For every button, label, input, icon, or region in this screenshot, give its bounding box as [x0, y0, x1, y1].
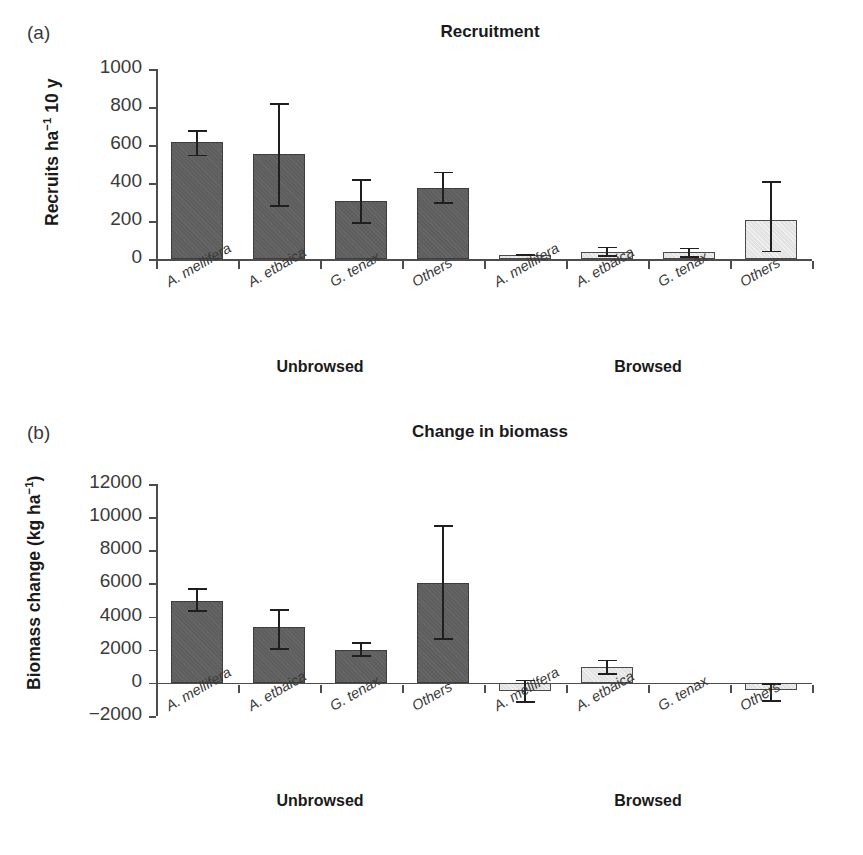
y-axis-tick-label: 0	[26, 246, 142, 268]
y-axis-line	[156, 484, 158, 716]
x-axis-tick	[484, 261, 486, 269]
panel-b: (b) Change in biomass Biomass change (kg…	[0, 400, 863, 855]
x-axis-tick	[238, 261, 240, 269]
error-bar-cap-upper	[598, 660, 617, 662]
error-bar-cap-lower	[188, 610, 207, 612]
y-axis-tick-label: 0	[26, 670, 142, 692]
error-bar-cap-lower	[270, 205, 289, 207]
x-axis-tick	[812, 261, 814, 269]
error-bar-cap-lower	[352, 222, 371, 224]
y-axis-tick	[149, 583, 156, 585]
y-axis-tick	[149, 484, 156, 486]
error-bar-cap-upper	[270, 103, 289, 105]
group-label: Unbrowsed	[210, 358, 430, 376]
group-label: Unbrowsed	[210, 792, 430, 810]
y-axis-tick	[149, 259, 156, 261]
y-axis-tick	[149, 683, 156, 685]
y-axis-line	[156, 69, 158, 259]
y-axis-tick	[149, 69, 156, 71]
error-bar	[266, 103, 292, 207]
x-axis-tick	[730, 685, 732, 693]
y-axis-tick	[149, 517, 156, 519]
error-bar-cap-upper	[762, 181, 781, 183]
y-axis-tick-label: 4000	[26, 604, 142, 626]
y-axis-tick	[149, 650, 156, 652]
x-axis-tick	[156, 261, 158, 269]
y-axis-tick-label: 8000	[26, 537, 142, 559]
bar[interactable]	[171, 142, 223, 259]
y-axis-tick-label: 400	[26, 170, 142, 192]
x-axis-tick	[648, 261, 650, 269]
error-bar-cap-upper	[680, 248, 699, 250]
error-bar	[184, 588, 210, 611]
y-axis-tick-label: 6000	[26, 570, 142, 592]
y-axis-tick	[149, 617, 156, 619]
error-bar	[184, 130, 210, 157]
x-axis-tick	[730, 261, 732, 269]
y-axis-tick	[149, 550, 156, 552]
y-axis-tick-label: 600	[26, 132, 142, 154]
error-bar-cap-upper	[598, 247, 617, 249]
error-bar-stem	[196, 588, 198, 611]
y-axis-tick-label: 12000	[26, 471, 142, 493]
y-axis-tick-label: 2000	[26, 637, 142, 659]
y-axis-tick-label: −2000	[26, 703, 142, 725]
error-bar-cap-lower	[270, 648, 289, 650]
x-axis-tick	[402, 261, 404, 269]
y-axis-tick-label: 1000	[26, 56, 142, 78]
error-bar-stem	[442, 172, 444, 204]
error-bar-stem	[278, 609, 280, 650]
x-axis-tick	[566, 685, 568, 693]
error-bar	[594, 660, 620, 675]
x-axis-tick	[566, 261, 568, 269]
y-axis-tick	[149, 716, 156, 718]
x-axis-tick	[484, 685, 486, 693]
error-bar-stem	[360, 179, 362, 224]
error-bar-stem	[278, 103, 280, 207]
panel-b-plot-area: −2000020004000600080001000012000A. melli…	[0, 400, 863, 855]
figure-root: (a) Recruitment Recruits ha−1 10 y 02004…	[0, 0, 863, 855]
y-axis-tick	[149, 183, 156, 185]
group-label: Browsed	[538, 358, 758, 376]
x-axis-tick	[320, 685, 322, 693]
y-axis-tick-label: 10000	[26, 504, 142, 526]
error-bar-cap-lower	[352, 655, 371, 657]
error-bar	[430, 525, 456, 639]
x-axis-tick	[320, 261, 322, 269]
error-bar-cap-upper	[352, 642, 371, 644]
x-axis-tick	[402, 685, 404, 693]
x-axis-tick	[238, 685, 240, 693]
y-axis-tick	[149, 221, 156, 223]
error-bar-cap-upper	[434, 525, 453, 527]
error-bar-cap-lower	[434, 638, 453, 640]
error-bar-cap-lower	[762, 251, 781, 253]
panel-a-plot-area: 02004006008001000A. melliferaA. etbaicaG…	[0, 0, 863, 400]
error-bar-cap-lower	[598, 673, 617, 675]
error-bar-stem	[442, 525, 444, 639]
group-label: Browsed	[538, 792, 758, 810]
error-bar-cap-upper	[188, 130, 207, 132]
error-bar-stem	[196, 130, 198, 157]
panel-a: (a) Recruitment Recruits ha−1 10 y 02004…	[0, 0, 863, 400]
error-bar	[266, 609, 292, 650]
error-bar	[348, 179, 374, 224]
x-axis-tick	[156, 685, 158, 693]
error-bar	[758, 181, 784, 252]
error-bar	[348, 642, 374, 657]
y-axis-tick-label: 800	[26, 94, 142, 116]
y-axis-tick	[149, 145, 156, 147]
error-bar-cap-upper	[270, 609, 289, 611]
x-axis-tick	[648, 685, 650, 693]
error-bar-stem	[770, 181, 772, 252]
x-axis-category-label: A. mellifera	[491, 240, 562, 290]
x-axis-tick	[812, 685, 814, 693]
error-bar-cap-lower	[434, 202, 453, 204]
y-axis-tick	[149, 107, 156, 109]
error-bar	[430, 172, 456, 204]
error-bar-cap-upper	[434, 172, 453, 174]
error-bar-cap-upper	[188, 588, 207, 590]
x-axis-category-label: G. tenax	[655, 673, 710, 714]
error-bar-cap-upper	[352, 179, 371, 181]
error-bar-cap-lower	[188, 155, 207, 157]
y-axis-tick-label: 200	[26, 208, 142, 230]
